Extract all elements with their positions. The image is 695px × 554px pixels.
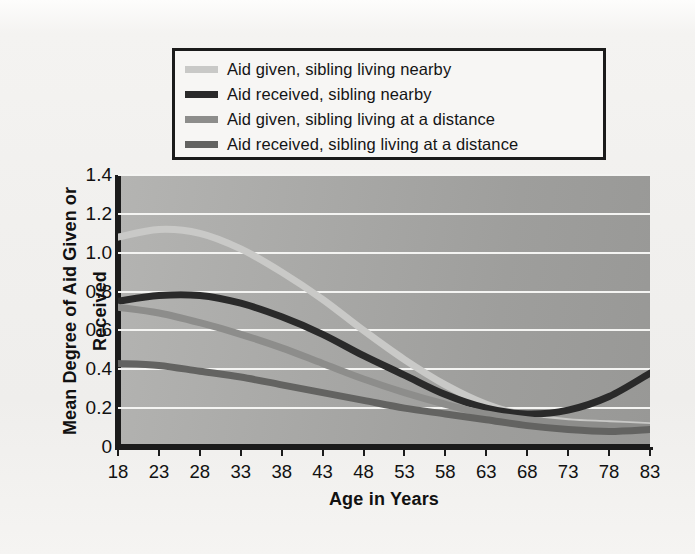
- x-tick: [158, 447, 160, 456]
- x-tick-label: 23: [139, 463, 179, 482]
- x-tick: [240, 447, 242, 456]
- chart-legend: Aid given, sibling living nearby Aid rec…: [172, 48, 606, 160]
- x-tick: [526, 447, 528, 456]
- x-tick: [117, 447, 119, 456]
- x-tick-label: 38: [262, 463, 302, 482]
- x-tick-label: 63: [466, 463, 506, 482]
- plot-area: 00.20.40.60.81.01.21.4 18232833384348535…: [118, 175, 650, 447]
- legend-item-label: Aid given, sibling living at a distance: [227, 111, 495, 128]
- x-tick-label: 43: [303, 463, 343, 482]
- x-tick: [649, 447, 651, 456]
- x-tick-label: 28: [180, 463, 220, 482]
- x-tick: [567, 447, 569, 456]
- legend-swatch-icon: [185, 141, 218, 148]
- legend-swatch-icon: [185, 66, 218, 73]
- x-tick: [485, 447, 487, 456]
- legend-item: Aid received, sibling nearby: [185, 82, 603, 107]
- x-tick-label: 68: [507, 463, 547, 482]
- x-tick: [363, 447, 365, 456]
- x-tick: [608, 447, 610, 456]
- x-tick-label: 73: [548, 463, 588, 482]
- x-tick: [444, 447, 446, 456]
- legend-item-label: Aid received, sibling living at a distan…: [227, 136, 518, 153]
- x-tick-label: 48: [344, 463, 384, 482]
- x-tick-label: 53: [384, 463, 424, 482]
- legend-item-label: Aid received, sibling nearby: [227, 86, 432, 103]
- legend-item: Aid given, sibling living nearby: [185, 57, 603, 82]
- x-tick: [322, 447, 324, 456]
- data-curves: [118, 175, 650, 447]
- legend-item: Aid given, sibling living at a distance: [185, 107, 603, 132]
- x-tick-label: 18: [98, 463, 138, 482]
- series-line: [118, 295, 650, 414]
- x-tick-label: 83: [630, 463, 670, 482]
- x-tick-label: 33: [221, 463, 261, 482]
- legend-swatch-icon: [185, 91, 218, 98]
- y-axis-title: Mean Degree of Aid Given or Received: [55, 175, 85, 447]
- x-tick: [403, 447, 405, 456]
- x-axis-line: [115, 447, 653, 450]
- series-line: [118, 229, 650, 425]
- legend-swatch-icon: [185, 116, 218, 123]
- legend-item: Aid received, sibling living at a distan…: [185, 132, 603, 157]
- x-axis-title: Age in Years: [118, 489, 650, 510]
- legend-item-label: Aid given, sibling living nearby: [227, 61, 451, 78]
- x-tick-label: 58: [425, 463, 465, 482]
- x-tick: [281, 447, 283, 456]
- x-tick-label: 78: [589, 463, 629, 482]
- figure-chart: Aid given, sibling living nearby Aid rec…: [0, 0, 695, 554]
- x-tick: [199, 447, 201, 456]
